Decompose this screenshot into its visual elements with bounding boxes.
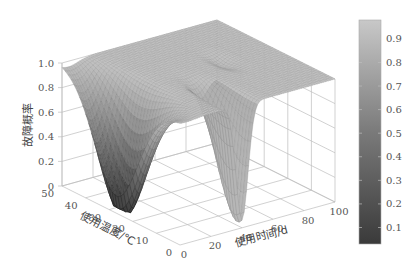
z-tick-label: 0.2 (38, 156, 54, 167)
z-axis-label: 故障概率 (21, 103, 35, 147)
temperature-tick-label: 40 (65, 200, 78, 211)
colorbar-tick-label: 0.7 (386, 81, 402, 92)
surface-mesh (62, 20, 335, 222)
colorbar-tick-label: 0.3 (386, 175, 402, 186)
temperature-tick-label: 0 (166, 247, 172, 258)
colorbar-tick-label: 0.9 (386, 33, 402, 44)
surface-chart: 00.20.40.60.81.001020304050020406080100 … (0, 0, 419, 268)
colorbar-tick-label: 0.6 (386, 104, 402, 115)
temperature-axis-label: 使用温度/℃ (78, 209, 138, 249)
z-tick-label: 1.0 (38, 58, 54, 69)
time-tick-label: 20 (209, 240, 222, 251)
colorbar-tick-label: 0.4 (386, 151, 402, 162)
temperature-tick-label: 10 (136, 235, 149, 246)
colorbar: 0.10.20.30.40.50.60.70.80.9 (359, 20, 402, 244)
colorbar-tick-label: 0.5 (386, 128, 402, 139)
colorbar-tick-label: 0.2 (386, 198, 402, 209)
time-tick-label: 80 (302, 215, 315, 226)
colorbar-tick-label: 0.1 (386, 222, 402, 233)
colorbar-tick-label: 0.8 (386, 57, 402, 68)
time-tick-label: 0 (181, 249, 187, 260)
time-tick-label: 100 (329, 206, 348, 217)
z-tick-label: 0.8 (38, 82, 54, 93)
z-tick-label: 0.6 (38, 107, 54, 118)
z-tick-label: 0.4 (38, 131, 54, 142)
temperature-tick-label: 50 (41, 188, 54, 199)
